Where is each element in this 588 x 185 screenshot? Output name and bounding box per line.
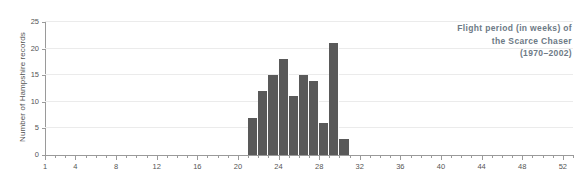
chart-title-line: the Scarce Chaser <box>457 35 572 48</box>
x-tick-mark-minor <box>299 156 300 158</box>
x-tick-label: 4 <box>65 162 85 171</box>
x-tick-mark-major <box>45 156 46 160</box>
chart-title-line: (1970–2002) <box>457 47 572 60</box>
x-tick-mark-minor <box>147 156 148 158</box>
x-tick-mark-major <box>319 156 320 160</box>
x-tick-mark-minor <box>543 156 544 158</box>
bar <box>258 91 268 155</box>
x-tick-mark-minor <box>471 156 472 158</box>
y-tick-label: 25 <box>15 18 39 26</box>
x-tick-mark-minor <box>532 156 533 158</box>
x-tick-label: 36 <box>390 162 410 171</box>
x-tick-mark-major <box>157 156 158 160</box>
chart-container: Number of Hampshire records 0510152025 1… <box>0 0 588 185</box>
x-tick-mark-major <box>238 156 239 160</box>
bar <box>299 75 309 155</box>
bar <box>268 75 278 155</box>
x-tick-mark-minor <box>96 156 97 158</box>
x-tick-mark-major <box>279 156 280 160</box>
x-tick-mark-major <box>522 156 523 160</box>
x-tick-mark-minor <box>573 156 574 158</box>
x-tick-mark-minor <box>431 156 432 158</box>
bar <box>329 43 339 155</box>
bar <box>309 81 319 155</box>
x-tick-mark-minor <box>492 156 493 158</box>
x-tick-mark-minor <box>553 156 554 158</box>
x-tick-mark-minor <box>268 156 269 158</box>
x-tick-mark-minor <box>502 156 503 158</box>
y-tick-label: 10 <box>15 98 39 106</box>
x-tick-mark-major <box>197 156 198 160</box>
x-tick-mark-minor <box>248 156 249 158</box>
x-tick-mark-minor <box>370 156 371 158</box>
x-tick-mark-minor <box>258 156 259 158</box>
x-tick-mark-minor <box>55 156 56 158</box>
chart-title-line: Flight period (in weeks) of <box>457 22 572 35</box>
x-tick-mark-minor <box>411 156 412 158</box>
x-tick-label: 12 <box>147 162 167 171</box>
x-tick-label: 40 <box>431 162 451 171</box>
x-tick-mark-minor <box>218 156 219 158</box>
x-tick-label: 48 <box>512 162 532 171</box>
x-tick-mark-minor <box>289 156 290 158</box>
x-tick-mark-minor <box>461 156 462 158</box>
x-tick-label: 52 <box>553 162 573 171</box>
x-tick-mark-minor <box>329 156 330 158</box>
x-tick-label: 20 <box>228 162 248 171</box>
y-tick-label: 15 <box>15 71 39 79</box>
x-tick-mark-minor <box>106 156 107 158</box>
x-tick-mark-major <box>75 156 76 160</box>
y-tick-label: 5 <box>15 124 39 132</box>
x-tick-mark-major <box>360 156 361 160</box>
x-tick-label: 8 <box>106 162 126 171</box>
x-tick-mark-minor <box>187 156 188 158</box>
x-tick-mark-major <box>563 156 564 160</box>
x-tick-mark-minor <box>390 156 391 158</box>
x-tick-mark-minor <box>421 156 422 158</box>
gridline-y <box>45 74 573 75</box>
x-tick-mark-minor <box>86 156 87 158</box>
bar <box>279 59 289 155</box>
bar <box>339 139 349 155</box>
x-tick-label: 44 <box>472 162 492 171</box>
bar <box>248 118 258 155</box>
x-tick-mark-minor <box>512 156 513 158</box>
x-tick-mark-minor <box>451 156 452 158</box>
x-tick-mark-major <box>116 156 117 160</box>
y-tick-label: 0 <box>15 151 39 159</box>
x-tick-label: 16 <box>187 162 207 171</box>
x-tick-label: 32 <box>350 162 370 171</box>
x-tick-mark-minor <box>309 156 310 158</box>
x-tick-mark-major <box>441 156 442 160</box>
x-tick-mark-minor <box>350 156 351 158</box>
x-tick-label: 1 <box>35 162 55 171</box>
x-tick-label: 28 <box>309 162 329 171</box>
x-tick-mark-minor <box>228 156 229 158</box>
chart-title: Flight period (in weeks) ofthe Scarce Ch… <box>457 22 572 60</box>
x-tick-mark-minor <box>167 156 168 158</box>
x-tick-mark-major <box>400 156 401 160</box>
x-tick-mark-minor <box>339 156 340 158</box>
x-tick-label: 24 <box>269 162 289 171</box>
bar <box>319 123 329 155</box>
x-tick-mark-minor <box>65 156 66 158</box>
x-tick-mark-minor <box>207 156 208 158</box>
y-axis-title: Number of Hampshire records <box>16 12 30 162</box>
x-tick-mark-minor <box>177 156 178 158</box>
x-tick-mark-minor <box>126 156 127 158</box>
y-tick-label: 20 <box>15 45 39 53</box>
x-tick-mark-minor <box>136 156 137 158</box>
x-tick-mark-major <box>482 156 483 160</box>
bar <box>289 96 299 155</box>
x-tick-mark-minor <box>380 156 381 158</box>
